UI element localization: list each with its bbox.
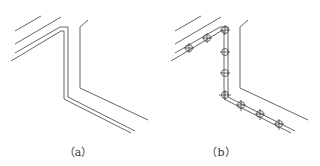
marker-icon [255,109,265,120]
marker-set [184,25,284,130]
panel-b [171,16,308,133]
diagram-canvas [0,0,320,166]
marker-icon [220,49,230,56]
marker-icon [220,25,230,35]
marker-icon [184,43,194,53]
panel-a [11,16,148,133]
caption-a: （a） [58,143,98,159]
caption-b: （b） [201,143,241,159]
marker-icon [219,90,231,100]
marker-icon [220,70,230,77]
